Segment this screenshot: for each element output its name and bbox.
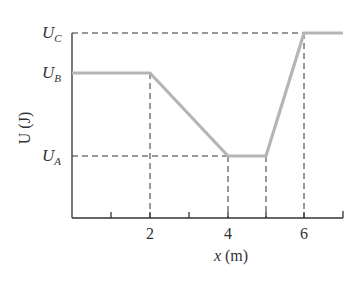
uc-label: UC — [42, 23, 62, 44]
x-axis-label: x (m) — [213, 247, 248, 265]
ua-label: UA — [42, 146, 61, 167]
y-axis-label: U (J) — [16, 112, 34, 144]
guide-lines — [72, 33, 304, 218]
potential-curve — [72, 33, 343, 156]
x-tick-4: 4 — [224, 225, 232, 242]
potential-energy-chart: UC UB UA U (J) 2 4 6 x (m) — [0, 0, 361, 281]
x-tick-6: 6 — [300, 225, 308, 242]
x-tick-2: 2 — [146, 225, 154, 242]
axes — [72, 33, 343, 218]
ub-label: UB — [42, 63, 61, 84]
